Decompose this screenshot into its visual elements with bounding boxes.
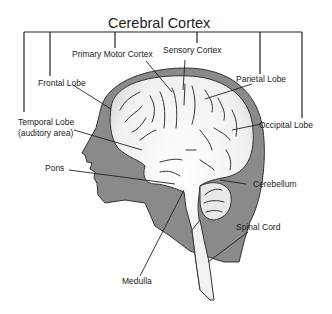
label-primary-motor-cortex: Primary Motor Cortex bbox=[72, 49, 154, 59]
label-sensory-cortex: Sensory Cortex bbox=[163, 45, 222, 55]
label-temporal-lobe-sub: (auditory area) bbox=[18, 128, 73, 138]
diagram-title: Cerebral Cortex bbox=[108, 15, 211, 31]
label-occipital-lobe: Occipital Lobe bbox=[259, 120, 313, 130]
label-temporal-lobe: Temporal Lobe bbox=[18, 117, 75, 127]
label-medulla: Medulla bbox=[122, 276, 152, 286]
label-frontal-lobe: Frontal Lobe bbox=[38, 78, 86, 88]
label-parietal-lobe: Parietal Lobe bbox=[236, 74, 286, 84]
label-spinal-cord: Spinal Cord bbox=[236, 222, 281, 232]
brain-anatomy-diagram: Cerebral Cortex Primary Motor Cortex Sen… bbox=[0, 0, 332, 314]
label-pons: Pons bbox=[45, 163, 64, 173]
label-cerebellum: Cerebellum bbox=[253, 179, 296, 189]
